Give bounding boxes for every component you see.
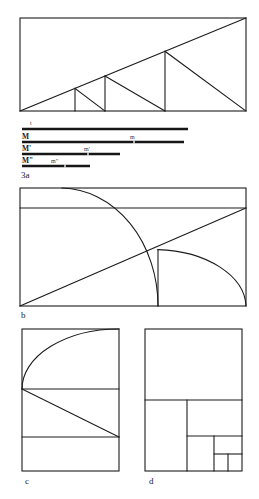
panel-b-minor-arc — [158, 250, 246, 306]
geometric-figure-svg: t M m M' m' M" m" 3a — [0, 0, 259, 499]
bar-row-1-left-label: M — [22, 132, 29, 141]
panel-label-a: 3a — [21, 170, 30, 180]
panel-label-b: b — [21, 310, 26, 320]
panel-c-outer-rectangle — [22, 329, 119, 471]
bar-row-3-right-label: m" — [51, 158, 59, 164]
panel-a-main-diagonal — [20, 18, 246, 111]
panel-b-main-diagonal — [20, 208, 246, 306]
bar-row-2-left-label: M' — [22, 144, 31, 153]
bar-row-0-tick-label: t — [30, 120, 32, 126]
bar-row-3-left-label: M" — [22, 156, 33, 165]
panel-d-group: d — [145, 329, 242, 486]
panel-a-group — [20, 18, 246, 111]
panel-a-bars-group: t M m M' m' M" m" 3a — [21, 120, 188, 180]
bar-row-2-right-label: m' — [84, 146, 90, 152]
panel-c-group: c — [22, 329, 119, 486]
panel-c-arc — [22, 329, 119, 389]
panel-label-c: c — [25, 476, 29, 486]
bar-row-1-right-label: m — [130, 134, 135, 140]
panel-label-d: d — [149, 476, 154, 486]
panel-a-descender-1 — [75, 88, 105, 111]
panel-a-descender-2 — [105, 76, 165, 111]
figure-root: t M m M' m' M" m" 3a — [0, 0, 259, 499]
panel-b-outer-rectangle — [20, 188, 246, 306]
panel-b-major-arc — [62, 188, 158, 306]
panel-a-descender-3 — [165, 51, 246, 111]
panel-b-group: b — [20, 188, 246, 320]
panel-c-diagonal — [22, 389, 119, 437]
